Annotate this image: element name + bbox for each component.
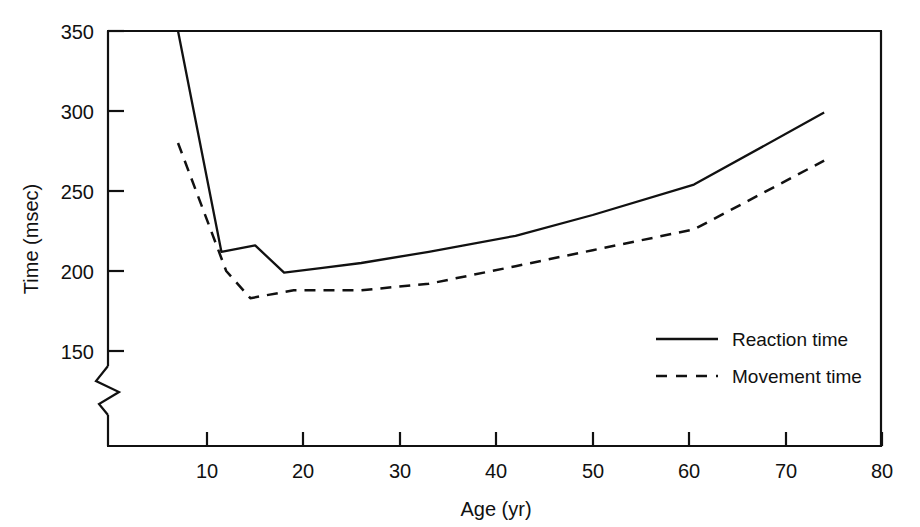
- y-tick-labels: 350 300 250 200 150: [61, 21, 94, 363]
- y-tick-marks: [108, 31, 124, 351]
- line-chart: 350 300 250 200 150 10 20 30 40 50 60 70…: [0, 0, 920, 527]
- x-tick-labels: 10 20 30 40 50 60 70 80: [196, 460, 893, 482]
- y-tick-label-300: 300: [61, 101, 94, 123]
- x-axis-title: Age (yr): [460, 498, 531, 520]
- chart-legend: Reaction time Movement time: [656, 329, 862, 387]
- x-tick-label-20: 20: [292, 460, 314, 482]
- y-axis-title: Time (msec): [20, 184, 42, 294]
- x-tick-label-40: 40: [485, 460, 507, 482]
- x-tick-label-30: 30: [389, 460, 411, 482]
- axis-break-symbol: [96, 366, 119, 415]
- legend-label-movement-time: Movement time: [732, 366, 862, 387]
- y-tick-label-350: 350: [61, 21, 94, 43]
- legend-label-reaction-time: Reaction time: [732, 329, 848, 350]
- x-tick-label-10: 10: [196, 460, 218, 482]
- chart-figure: 350 300 250 200 150 10 20 30 40 50 60 70…: [0, 0, 920, 527]
- series-line-reaction-time: [178, 31, 824, 273]
- data-series: [178, 31, 824, 298]
- x-tick-label-50: 50: [582, 460, 604, 482]
- y-tick-label-150: 150: [61, 341, 94, 363]
- x-tick-label-70: 70: [775, 460, 797, 482]
- y-tick-label-250: 250: [61, 181, 94, 203]
- y-tick-label-200: 200: [61, 261, 94, 283]
- x-tick-marks: [207, 432, 882, 446]
- x-tick-label-60: 60: [678, 460, 700, 482]
- x-tick-label-80: 80: [871, 460, 893, 482]
